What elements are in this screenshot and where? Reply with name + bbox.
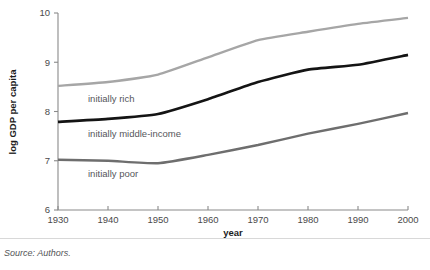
series-inline-labels: initially richinitially middle-incomeini…: [88, 93, 181, 180]
series-line: [58, 55, 408, 122]
chart-tick-marks: [54, 13, 408, 210]
y-tick-label: 9: [45, 57, 50, 68]
y-tick-label: 10: [39, 7, 50, 18]
x-tick-labels: 19301940195019601970198019902000: [47, 214, 418, 225]
series-label: initially middle-income: [88, 128, 181, 139]
x-tick-label: 1960: [197, 214, 218, 225]
series-label: initially poor: [88, 168, 138, 179]
y-tick-labels: 678910: [39, 7, 50, 215]
chart-figure: 678910 19301940195019601970198019902000 …: [0, 0, 430, 270]
y-axis-title: log GDP per capita: [7, 69, 18, 155]
x-tick-label: 1980: [297, 214, 318, 225]
source-note: Source: Authors.: [4, 248, 71, 258]
x-tick-label: 1940: [97, 214, 118, 225]
y-tick-label: 7: [45, 155, 50, 166]
x-tick-label: 1930: [47, 214, 68, 225]
chart-series-lines: [58, 18, 408, 163]
series-line: [58, 18, 408, 86]
x-tick-label: 1970: [247, 214, 268, 225]
chart-axes: [58, 13, 408, 210]
x-tick-label: 2000: [397, 214, 418, 225]
x-axis-title: year: [223, 227, 243, 238]
x-tick-label: 1950: [147, 214, 168, 225]
x-tick-label: 1990: [347, 214, 368, 225]
y-tick-label: 8: [45, 106, 50, 117]
series-label: initially rich: [88, 93, 134, 104]
line-chart: 678910 19301940195019601970198019902000 …: [0, 0, 430, 270]
footer-divider: [0, 238, 430, 239]
